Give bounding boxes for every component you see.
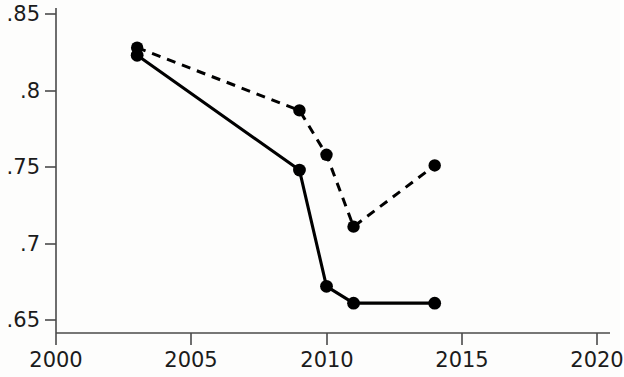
y-axis-label-075: .75 xyxy=(0,157,40,178)
data-point-marker xyxy=(320,280,333,293)
series-solid-group xyxy=(131,49,441,310)
data-point-marker xyxy=(347,220,359,232)
x-axis-label-2010: 2010 xyxy=(300,350,353,371)
solid-series-line xyxy=(137,55,435,303)
x-axis-label-2000: 2000 xyxy=(29,350,82,371)
x-axis-label-2005: 2005 xyxy=(164,350,217,371)
data-point-marker xyxy=(320,149,332,161)
dashed-series-line xyxy=(137,48,435,227)
dashed-series-markers xyxy=(131,41,441,232)
data-point-marker xyxy=(131,49,144,62)
data-point-marker xyxy=(347,297,360,310)
y-axis-label-08: .8 xyxy=(0,81,40,102)
x-axis-label-2015: 2015 xyxy=(435,350,488,371)
solid-series-markers xyxy=(131,49,441,310)
y-axis-label-085: .85 xyxy=(0,4,40,25)
y-axis-label-065: .65 xyxy=(0,310,40,331)
data-point-marker xyxy=(293,164,306,177)
data-point-marker xyxy=(428,297,441,310)
data-point-marker xyxy=(293,104,305,116)
data-point-marker xyxy=(429,159,441,171)
y-axis-label-07: .7 xyxy=(0,234,40,255)
x-axis-label-2020: 2020 xyxy=(570,350,623,371)
series-dashed-group xyxy=(131,41,441,232)
axes-group xyxy=(45,8,610,345)
